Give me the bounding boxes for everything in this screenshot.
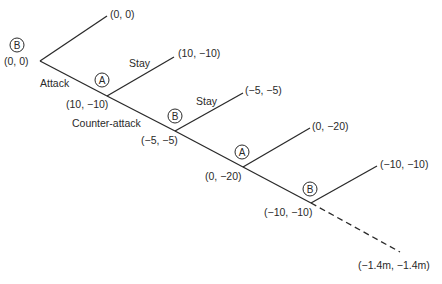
- player-label: B: [14, 40, 21, 51]
- node-payoff-label: (0, −20): [205, 170, 241, 182]
- player-label: B: [307, 184, 314, 195]
- edge-dashed-continuation: [311, 203, 400, 252]
- node-b-4: B: [303, 182, 317, 196]
- node-payoff-label: (−5, −5): [141, 134, 178, 146]
- node-b-2: B: [168, 109, 182, 123]
- node-a-1: A: [95, 73, 109, 87]
- edge-label-attack: Attack: [40, 77, 70, 89]
- player-label: A: [239, 147, 246, 158]
- edge-label-stay: Stay: [196, 95, 218, 107]
- edge-label-counter-attack: Counter-attack: [72, 117, 142, 129]
- terminal-payoff-label: (−5, −5): [245, 84, 282, 96]
- terminal-payoff-label: (0, −20): [312, 120, 348, 132]
- node-payoff-label: (0, 0): [4, 55, 29, 67]
- node-payoff-label: (10, −10): [66, 98, 108, 110]
- node-b-root: B: [10, 38, 24, 52]
- node-a-3: A: [235, 145, 249, 159]
- terminal-payoff-label: (−1.4m, −1.4m): [358, 259, 430, 271]
- edge-label-stay: Stay: [129, 57, 151, 69]
- player-label: B: [172, 111, 179, 122]
- node-payoff-label: (−10, −10): [264, 206, 312, 218]
- edge-branch-3: [243, 128, 310, 167]
- edge-main-4: [243, 167, 311, 203]
- terminal-payoff-label: (10, −10): [178, 47, 220, 59]
- terminal-payoff-label: (−10, −10): [380, 158, 428, 170]
- edge-root-to-terminal-0: [40, 16, 107, 61]
- game-tree-diagram: B A B A B (0, 0) (10, −10) (−5, −5) (0, …: [0, 0, 442, 284]
- terminal-payoff-label: (0, 0): [110, 8, 135, 20]
- edge-main-3: [175, 131, 243, 167]
- edge-branch-4: [311, 166, 377, 203]
- player-label: A: [99, 75, 106, 86]
